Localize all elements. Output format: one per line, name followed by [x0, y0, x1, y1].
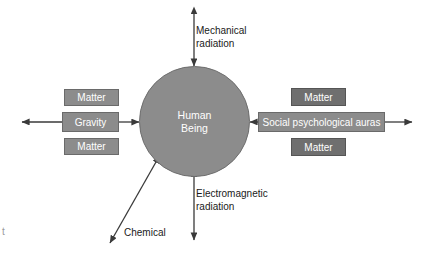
box-label: Matter: [304, 92, 332, 103]
diagram-canvas: Human Being Matter Gravity Matter Matter…: [0, 0, 426, 256]
label-chemical: Chemical: [124, 227, 166, 240]
box-matter-right-bottom: Matter: [291, 138, 346, 156]
box-label: Matter: [77, 92, 105, 103]
box-label: Gravity: [75, 117, 107, 128]
box-label: Social psychological auras: [263, 117, 381, 128]
center-node-label: Human Being: [178, 109, 212, 135]
box-matter-left-bottom: Matter: [64, 138, 119, 155]
label-mechanical-radiation: Mechanical radiation: [196, 25, 247, 50]
box-social-psychological-auras: Social psychological auras: [258, 112, 385, 132]
stray-cropped-character: t: [2, 226, 5, 237]
box-label: Matter: [77, 141, 105, 152]
label-electromagnetic-radiation: Electromagnetic radiation: [196, 188, 268, 213]
box-matter-right-top: Matter: [291, 88, 346, 106]
box-matter-left-top: Matter: [64, 89, 119, 106]
box-label: Matter: [304, 142, 332, 153]
box-gravity: Gravity: [62, 112, 119, 132]
center-node-human-being: Human Being: [139, 66, 250, 177]
